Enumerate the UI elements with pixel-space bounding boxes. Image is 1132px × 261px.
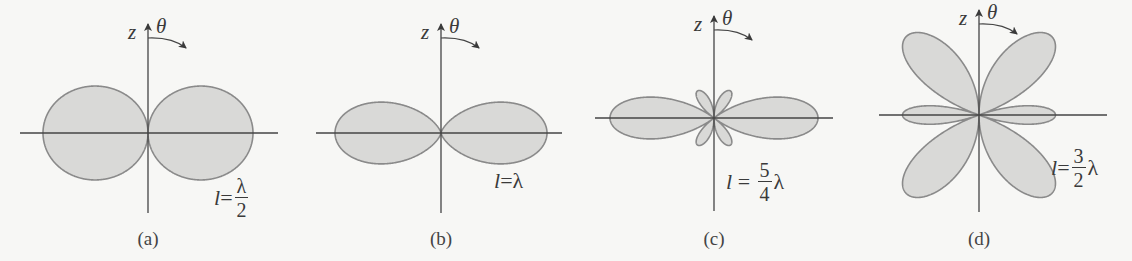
z-axis-label: z xyxy=(694,12,702,37)
theta-label: θ xyxy=(722,6,732,31)
length-label: l = 5 4 λ xyxy=(726,160,784,204)
theta-arc-arrow-icon xyxy=(979,24,1017,34)
length-label: l = λ xyxy=(494,168,523,194)
panel-caption: (c) xyxy=(703,228,724,250)
panel-caption: (d) xyxy=(968,228,990,250)
length-label: l = 3 2 λ xyxy=(1051,146,1098,190)
panel-c-five-quarter-wave-dipole xyxy=(595,16,833,211)
theta-label: θ xyxy=(156,14,166,39)
theta-label: θ xyxy=(449,14,459,39)
length-label: l = λ 2 xyxy=(214,176,250,220)
z-axis-label: z xyxy=(128,20,136,45)
theta-label: θ xyxy=(987,0,997,25)
fraction: 5 4 xyxy=(758,160,772,204)
z-axis-label: z xyxy=(959,6,967,31)
fraction: 3 2 xyxy=(1072,146,1086,190)
panel-b-full-wave-dipole xyxy=(316,24,562,213)
radiation-pattern-figure xyxy=(0,0,1132,261)
panel-caption: (a) xyxy=(137,228,158,250)
fraction: λ 2 xyxy=(235,176,249,220)
theta-arc-arrow-icon xyxy=(148,38,186,48)
z-axis-label: z xyxy=(421,20,429,45)
theta-arc-arrow-icon xyxy=(714,30,752,40)
panel-caption: (b) xyxy=(430,228,452,250)
theta-arc-arrow-icon xyxy=(441,38,479,48)
